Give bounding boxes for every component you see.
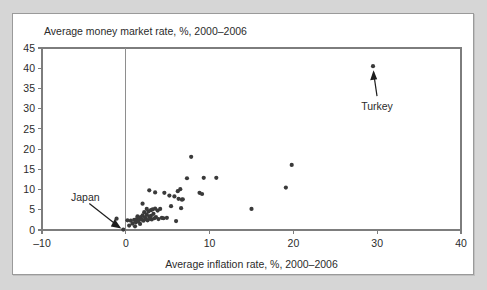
y-tick-label: 45 [23, 42, 35, 54]
figure-panel: Average money market rate, %, 2000–20060… [12, 13, 474, 275]
y-tick-label: 0 [29, 224, 35, 236]
data-point [371, 64, 375, 68]
data-point [202, 176, 206, 180]
chart-canvas: Average money market rate, %, 2000–20060… [13, 14, 475, 276]
data-point [179, 206, 183, 210]
y-tick-label: 5 [29, 203, 35, 215]
x-tick-label: 10 [204, 237, 216, 249]
data-point [172, 194, 176, 198]
data-point [121, 227, 125, 231]
data-point [284, 185, 288, 189]
y-tick-label: 25 [23, 123, 35, 135]
y-tick-label: 40 [23, 62, 35, 74]
y-tick-label: 35 [23, 82, 35, 94]
data-point [153, 190, 157, 194]
data-point [133, 224, 137, 228]
data-point [178, 187, 182, 191]
y-tick-label: 20 [23, 143, 35, 155]
data-point [147, 188, 151, 192]
turkey-annotation-label: Turkey [361, 100, 393, 112]
y-tick-label: 15 [23, 163, 35, 175]
data-point [185, 176, 189, 180]
data-point [174, 219, 178, 223]
data-point [169, 204, 173, 208]
x-tick-label: –10 [33, 237, 51, 249]
data-point [158, 207, 162, 211]
y-tick-label: 30 [23, 102, 35, 114]
x-tick-label: 0 [123, 237, 129, 249]
data-point [249, 207, 253, 211]
x-tick-label: 20 [288, 237, 300, 249]
y-tick-label: 10 [23, 183, 35, 195]
x-tick-label: 40 [455, 237, 467, 249]
data-point [165, 216, 169, 220]
x-tick-label: 30 [371, 237, 383, 249]
data-point [162, 191, 166, 195]
data-point [181, 197, 185, 201]
japan-annotation-label: Japan [71, 191, 100, 203]
data-point [140, 202, 144, 206]
plot-frame [42, 48, 461, 230]
data-point [138, 222, 142, 226]
chart-title: Average money market rate, %, 2000–2006 [44, 25, 247, 37]
data-point [200, 192, 204, 196]
x-axis-title: Average inflation rate, %, 2000–2006 [165, 258, 338, 270]
data-point [167, 194, 171, 198]
data-point [189, 155, 193, 159]
scatter-chart: Average money market rate, %, 2000–20060… [13, 14, 475, 276]
data-point [290, 163, 294, 167]
data-point [214, 176, 218, 180]
turkey-arrow-head [370, 70, 377, 80]
